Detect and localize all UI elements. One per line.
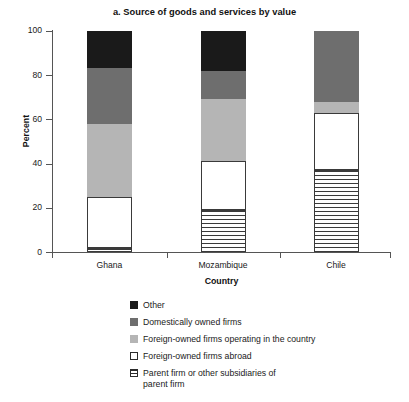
bar-segment xyxy=(201,31,246,71)
bar-segment xyxy=(314,113,359,171)
legend-swatch-icon xyxy=(130,352,138,360)
chart-figure: a. Source of goods and services by value… xyxy=(0,0,409,402)
legend-swatch-icon xyxy=(130,335,138,343)
bar-segment xyxy=(314,31,359,102)
legend-label: Other xyxy=(143,300,165,311)
bar-segment xyxy=(87,31,132,69)
x-axis-tick xyxy=(167,253,168,258)
bar-mozambique[interactable] xyxy=(201,31,246,252)
x-axis-title: Country xyxy=(52,276,391,286)
bar-segment xyxy=(87,248,132,252)
bar-segment xyxy=(201,161,246,210)
y-axis-tick-label: 20 xyxy=(32,202,42,212)
legend-item[interactable]: Foreign-owned firms operating in the cou… xyxy=(130,334,409,345)
x-axis-tick-label: Mozambique xyxy=(163,260,283,270)
legend-item[interactable]: Parent firm or other subsidiaries of par… xyxy=(130,368,409,389)
legend-swatch-icon xyxy=(130,301,138,309)
legend-item[interactable]: Domestically owned firms xyxy=(130,317,409,328)
x-axis-tick-label: Ghana xyxy=(50,260,170,270)
legend-item[interactable]: Other xyxy=(130,300,409,311)
chart-legend: OtherDomestically owned firmsForeign-own… xyxy=(130,300,409,396)
bar-segment xyxy=(314,170,359,252)
y-axis-tick-label: 0 xyxy=(37,247,42,257)
chart-title: a. Source of goods and services by value xyxy=(0,7,409,17)
bar-segment xyxy=(87,197,132,248)
bar-ghana[interactable] xyxy=(87,31,132,252)
x-axis-line xyxy=(52,252,391,253)
y-axis-tick-label: 100 xyxy=(28,25,42,35)
bar-segment xyxy=(201,210,246,252)
bar-segment xyxy=(201,99,246,161)
bar-segment xyxy=(314,102,359,113)
plot-area xyxy=(52,30,390,252)
y-axis-title: Percent xyxy=(21,91,31,171)
bar-chile[interactable] xyxy=(314,31,359,252)
bar-segment xyxy=(87,124,132,197)
x-axis-tick xyxy=(390,253,391,258)
legend-label: Domestically owned firms xyxy=(143,317,242,328)
y-axis-tick-label: 40 xyxy=(32,158,42,168)
legend-item[interactable]: Foreign-owned firms abroad xyxy=(130,351,409,362)
legend-label: Foreign-owned firms abroad xyxy=(143,351,252,362)
y-axis-tick-label: 60 xyxy=(32,114,42,124)
bar-segment xyxy=(201,71,246,100)
y-axis-tick-label: 80 xyxy=(32,70,42,80)
x-axis-tick-label: Chile xyxy=(276,260,396,270)
bar-segment xyxy=(87,68,132,123)
x-axis-tick xyxy=(280,253,281,258)
legend-label: Foreign-owned firms operating in the cou… xyxy=(143,334,315,345)
x-axis-tick xyxy=(52,253,53,258)
legend-label: Parent firm or other subsidiaries of par… xyxy=(143,368,276,389)
legend-swatch-icon xyxy=(130,318,138,326)
legend-swatch-icon xyxy=(130,369,138,377)
